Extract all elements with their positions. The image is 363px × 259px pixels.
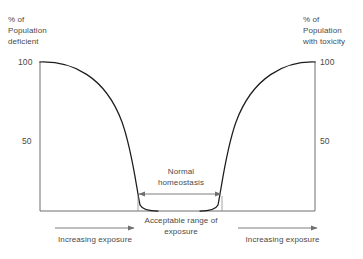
left-axis-tick-100: 100 xyxy=(18,57,32,68)
increasing-exposure-label-left: Increasing exposure xyxy=(40,234,150,245)
left-axis-tick-50: 50 xyxy=(22,136,32,147)
right-axis-tick-100: 100 xyxy=(320,57,334,68)
increasing-exposure-label-right: Increasing exposure xyxy=(225,234,340,245)
normal-homeostasis-label: Normal homeostasis xyxy=(131,166,231,188)
right-axis-header-label: % of Population with toxicity xyxy=(303,14,345,47)
toxicity-curve xyxy=(200,62,315,211)
right-axis-tick-50: 50 xyxy=(320,136,330,147)
figure-canvas: % of Population deficient % of Populatio… xyxy=(0,0,363,259)
deficiency-curve xyxy=(40,62,158,211)
left-axis-header-label: % of Population deficient xyxy=(8,14,47,47)
